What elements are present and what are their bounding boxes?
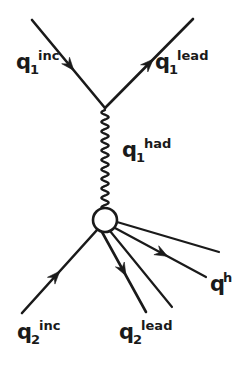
label-q2-inc: q2inc: [17, 322, 63, 343]
label-q1-inc: q1inc: [16, 52, 62, 73]
label-q2-inc-base: q: [17, 320, 32, 344]
label-q1-lead-base: q: [155, 50, 170, 74]
label-q1-inc-subscript: 1: [30, 62, 39, 77]
label-q2-lead-base: q: [119, 320, 134, 344]
q1-had-gluon-propagator: [101, 110, 108, 208]
label-q2-inc-subscript: 2: [31, 332, 40, 347]
label-q1-had-subscript: 1: [136, 150, 145, 165]
vertices-group: [93, 208, 117, 232]
label-q2-lead: q2lead: [119, 322, 174, 343]
label-q1-had-superscript: had: [144, 136, 171, 151]
label-q1-had: q1had: [122, 140, 173, 161]
label-q1-lead-superscript: lead: [177, 48, 208, 63]
label-q1-had-base: q: [122, 138, 137, 162]
label-q1-lead-subscript: 1: [169, 62, 178, 77]
label-q-h: qh: [210, 274, 234, 295]
lower-blob: [93, 208, 117, 232]
arrowheads-group: [47, 57, 167, 284]
label-q2-inc-superscript: inc: [39, 318, 60, 333]
feynman-diagram-figure: q1incq1leadq1hadq2incq2leadqh: [0, 0, 248, 368]
gluon-propagator-group: [101, 110, 108, 208]
label-q1-inc-base: q: [16, 50, 31, 74]
label-q2-lead-superscript: lead: [141, 318, 172, 333]
label-q1-lead: q1lead: [155, 52, 210, 73]
label-q1-inc-superscript: inc: [38, 48, 59, 63]
label-q-h-superscript: h: [223, 270, 232, 285]
label-q2-lead-subscript: 2: [133, 332, 142, 347]
